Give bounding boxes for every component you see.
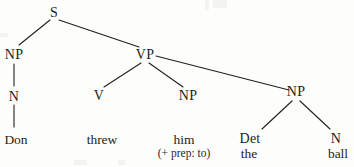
edge-np-object2-to-n bbox=[300, 101, 330, 129]
edge-vp-to-np-object1 bbox=[149, 63, 183, 87]
node-n-subject: N bbox=[9, 90, 19, 104]
edge-vp-to-np-object2 bbox=[156, 56, 289, 90]
edge-s-to-vp bbox=[59, 20, 139, 47]
edge-vp-to-v bbox=[104, 63, 141, 87]
node-s: S bbox=[50, 6, 58, 20]
node-n-object: N bbox=[331, 132, 341, 146]
edge-np-object2-to-det bbox=[262, 101, 292, 129]
syntax-tree-figure: S NP N VP V NP NP Det N Don threw him (+… bbox=[0, 0, 354, 167]
edge-s-to-np-subject bbox=[19, 20, 50, 45]
leaf-ball: ball bbox=[328, 147, 348, 161]
node-det: Det bbox=[240, 132, 261, 146]
node-np-object-direct: NP bbox=[287, 85, 305, 99]
leaf-don: Don bbox=[4, 133, 27, 147]
node-vp: VP bbox=[136, 48, 154, 62]
node-np-subject: NP bbox=[5, 48, 23, 62]
leaf-the: the bbox=[241, 147, 258, 161]
node-v: V bbox=[94, 89, 104, 103]
leaf-him-feature: (+ prep: to) bbox=[158, 148, 210, 160]
leaf-him: him bbox=[173, 133, 194, 147]
leaf-threw: threw bbox=[87, 133, 118, 147]
node-np-object-indirect: NP bbox=[179, 89, 197, 103]
